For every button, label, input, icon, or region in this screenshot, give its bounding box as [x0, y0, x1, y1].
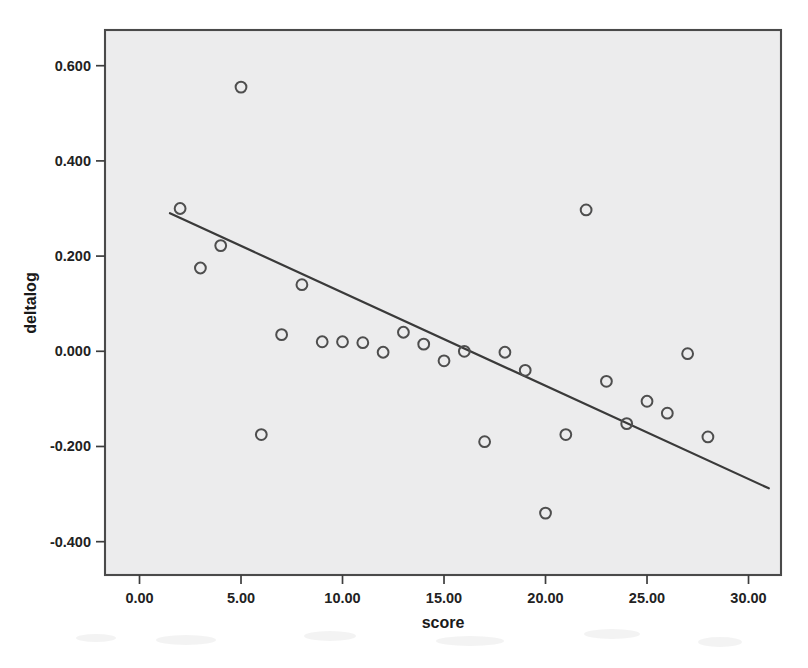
y-tick-label: 0.200: [55, 248, 91, 264]
y-tick-label: 0.600: [55, 58, 91, 74]
x-axis-title: score: [422, 614, 465, 631]
y-tick-label: 0.400: [55, 153, 91, 169]
y-tick-label: -0.400: [50, 534, 91, 550]
x-tick-label: 30.00: [730, 590, 766, 606]
x-tick-label: 5.00: [227, 590, 255, 606]
x-tick-label: 15.00: [426, 590, 462, 606]
x-tick-label: 20.00: [527, 590, 563, 606]
x-tick-label: 25.00: [629, 590, 665, 606]
plot-area-frame: [105, 30, 781, 575]
y-axis-title: deltalog: [22, 272, 39, 333]
y-tick-label: -0.200: [50, 438, 91, 454]
y-tick-label: 0.000: [55, 343, 91, 359]
scatter-plot-figure: 0.6000.4000.2000.000-0.200-0.400 0.005.0…: [0, 0, 808, 668]
x-tick-label: 0.00: [125, 590, 153, 606]
x-tick-label: 10.00: [324, 590, 360, 606]
